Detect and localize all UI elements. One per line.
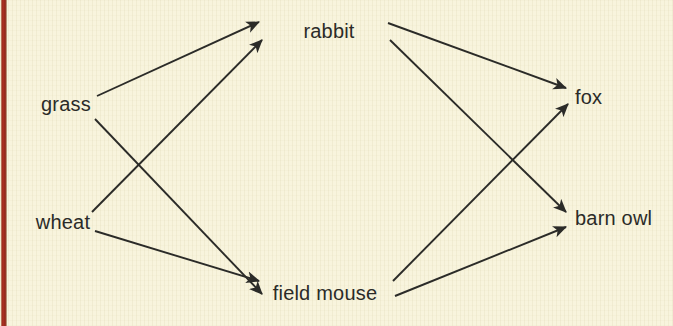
node-label-fox: fox xyxy=(575,86,602,108)
edge-arrow-rabbit-to-barn-owl xyxy=(390,40,566,212)
edge-arrow-grass-to-field-mouse xyxy=(95,119,262,294)
food-web-diagram xyxy=(0,0,673,326)
edge-arrow-field-mouse-to-barn-owl xyxy=(395,227,566,296)
node-label-barn-owl: barn owl xyxy=(575,207,652,229)
edge-arrow-rabbit-to-fox xyxy=(388,23,566,88)
node-label-rabbit: rabbit xyxy=(303,20,354,42)
edge-arrow-grass-to-rabbit xyxy=(97,22,259,96)
node-label-wheat: wheat xyxy=(36,211,90,233)
figure-canvas: grasswheatrabbitfield mousefoxbarn owl xyxy=(0,0,673,326)
node-label-field-mouse: field mouse xyxy=(273,282,377,304)
edge-layer xyxy=(92,22,568,296)
edge-arrow-field-mouse-to-fox xyxy=(393,104,568,281)
edge-arrow-wheat-to-field-mouse xyxy=(95,231,259,281)
edge-arrow-wheat-to-rabbit xyxy=(92,40,262,212)
node-label-grass: grass xyxy=(41,93,91,115)
